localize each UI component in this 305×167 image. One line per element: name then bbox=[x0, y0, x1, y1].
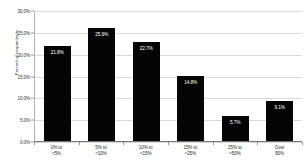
bar-slot: 21.8% bbox=[35, 11, 79, 141]
y-axis-tick-label: 5.0% bbox=[20, 118, 30, 123]
y-axis-tick-label: 20.0% bbox=[17, 52, 30, 57]
x-axis-tick-label-line1: 10% to bbox=[139, 145, 153, 150]
y-axis-tick-label: 0.0% bbox=[20, 140, 30, 145]
cropped-chart-title-text: • bbox=[95, 0, 99, 4]
y-axis-tick-label: 15.0% bbox=[17, 74, 30, 79]
x-axis-tick-label-line1: 0% to bbox=[51, 145, 62, 150]
x-axis-tick-labels: 0% to<5%5% to<10%10% to<15%15% to<25%25%… bbox=[34, 145, 302, 167]
x-axis-tick-label: 5% to<10% bbox=[79, 145, 123, 167]
bar-value-label: 9.1% bbox=[266, 105, 293, 110]
bar[interactable]: 9.1% bbox=[266, 101, 293, 141]
x-axis-tick-label: 25% to<50% bbox=[213, 145, 257, 167]
bar[interactable]: 25.9% bbox=[88, 28, 115, 141]
x-axis-tick-mark bbox=[302, 142, 303, 145]
y-axis-tick-labels: 0.0%5.0%10.0%15.0%20.0%25.0%30.0% bbox=[0, 11, 34, 142]
bar-value-label: 25.9% bbox=[88, 32, 115, 37]
x-axis-tick-label: Over50% bbox=[257, 145, 301, 167]
x-axis-tick-label-line2: <25% bbox=[168, 151, 212, 157]
y-axis-tick-label: 10.0% bbox=[17, 96, 30, 101]
bar[interactable]: 21.8% bbox=[44, 46, 71, 141]
x-axis-tick-label: 10% to<15% bbox=[123, 145, 167, 167]
x-axis-tick-label-line2: 50% bbox=[257, 151, 301, 157]
bar[interactable]: 22.7% bbox=[133, 42, 160, 141]
x-axis-tick-label-line2: <10% bbox=[79, 151, 123, 157]
y-axis-tick-label: 25.0% bbox=[17, 30, 30, 35]
x-axis-tick-label-line2: <50% bbox=[213, 151, 257, 157]
bar-slot: 22.7% bbox=[124, 11, 168, 141]
bar-slot: 9.1% bbox=[258, 11, 302, 141]
x-axis-tick-label-line2: <5% bbox=[34, 151, 78, 157]
bar-value-label: 21.8% bbox=[44, 50, 71, 55]
x-axis-tick-label-line1: 15% to bbox=[183, 145, 197, 150]
bar-slot: 14.8% bbox=[169, 11, 213, 141]
x-axis-tick-label-line1: Over bbox=[275, 145, 285, 150]
bar-slot: 5.7% bbox=[213, 11, 257, 141]
x-axis-tick-label-line1: 5% to bbox=[95, 145, 106, 150]
bar-series: 21.8%25.9%22.7%14.8%5.7%9.1% bbox=[35, 11, 302, 141]
x-axis-tick-label-line1: 25% to bbox=[228, 145, 242, 150]
bar-chart: • Percent of respondents 0.0%5.0%10.0%15… bbox=[0, 0, 305, 167]
bar-slot: 25.9% bbox=[80, 11, 124, 141]
bar-value-label: 14.8% bbox=[177, 80, 204, 85]
cropped-chart-title: • bbox=[0, 0, 305, 8]
x-axis-tick-label: 15% to<25% bbox=[168, 145, 212, 167]
bar[interactable]: 14.8% bbox=[177, 76, 204, 141]
plot-area: 21.8%25.9%22.7%14.8%5.7%9.1% bbox=[34, 11, 302, 142]
x-axis-tick-label-line2: <15% bbox=[123, 151, 167, 157]
y-axis-tick-label: 30.0% bbox=[17, 9, 30, 14]
bar-value-label: 22.7% bbox=[133, 46, 160, 51]
x-axis-tick-label: 0% to<5% bbox=[34, 145, 78, 167]
bar[interactable]: 5.7% bbox=[222, 116, 249, 141]
bar-value-label: 5.7% bbox=[222, 120, 249, 125]
